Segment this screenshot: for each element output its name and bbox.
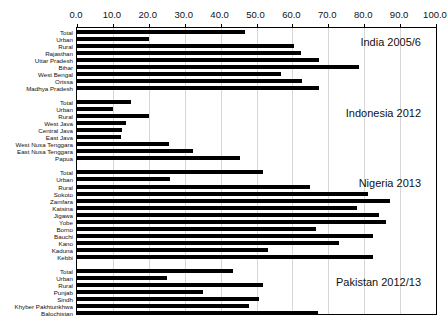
bar-row-label: Bihar [59, 63, 73, 70]
bar [77, 248, 268, 252]
bar-row: Bauchi [0, 232, 445, 239]
bar [77, 107, 113, 111]
bar-row: Bihar [0, 63, 445, 70]
bar-row: Central Java [0, 127, 445, 134]
bar-row: Total [0, 98, 445, 105]
bar-row-label: Total [60, 268, 73, 275]
bar [77, 79, 302, 83]
bar-row: Orissa [0, 77, 445, 84]
bar [77, 297, 259, 301]
bar-row-label: East Java [46, 134, 73, 141]
bar [77, 128, 122, 132]
bar [77, 114, 149, 118]
bar [77, 51, 301, 55]
bar-row-label: Yobe [59, 218, 73, 225]
bar-row: Yobe [0, 218, 445, 225]
bar-row-label: Punjab [54, 289, 73, 296]
bar-row-label: Uttar Pradesh [35, 56, 73, 63]
bar [77, 241, 339, 245]
bar-row: West Java [0, 120, 445, 127]
bar-row-label: Kaduna [52, 246, 73, 253]
bar-row-label: West Nusa Tenggara [15, 141, 73, 148]
bar [77, 199, 390, 203]
section-label: India 2005/6 [360, 36, 421, 49]
bar-row: Borno [0, 225, 445, 232]
bar-row-label: Rural [58, 183, 73, 190]
bar [77, 30, 245, 34]
bar-row: Balochistan [0, 310, 445, 317]
bar-row-label: Papua [55, 155, 73, 162]
bar-row-label: Total [60, 169, 73, 176]
bar-row-label: West Java [44, 120, 73, 127]
bar-row: West Nusa Tenggara [0, 141, 445, 148]
bar [77, 192, 368, 196]
bar [77, 290, 203, 294]
bar [77, 58, 319, 62]
bar [77, 283, 263, 287]
bar-row-label: Rural [58, 282, 73, 289]
bar-row: Madhya Pradesh [0, 84, 445, 91]
bar [77, 177, 170, 181]
bar-row: Total [0, 28, 445, 35]
bar [77, 100, 131, 104]
bar [77, 206, 357, 210]
bar [77, 304, 249, 308]
bar-row-label: Urban [56, 106, 73, 113]
bar-row: Katsina [0, 204, 445, 211]
section-label: Indonesia 2012 [346, 107, 421, 120]
bar [77, 156, 240, 160]
bar [77, 44, 294, 48]
bar-row-label: Urban [56, 35, 73, 42]
bar [77, 142, 169, 146]
bar-row-label: West Bengal [38, 70, 73, 77]
bar-row-label: Rajasthan [45, 49, 73, 56]
bar [77, 72, 281, 76]
bar [77, 65, 359, 69]
bar-row: Punjab [0, 289, 445, 296]
section-label: Pakistan 2012/13 [336, 276, 421, 289]
bar-row: Total [0, 169, 445, 176]
bar-row-label: Total [60, 28, 73, 35]
bar-row-label: Khyber Pakhtunkhwa [15, 303, 73, 310]
bar-row-label: Sokoto [54, 190, 73, 197]
bar-row: Kebbi [0, 254, 445, 261]
bar [77, 135, 121, 139]
bar-row: Uttar Pradesh [0, 56, 445, 63]
bar-row-label: Rural [58, 42, 73, 49]
bar-row: East Java [0, 134, 445, 141]
bar-row: Kano [0, 239, 445, 246]
bar-row-label: Total [60, 98, 73, 105]
bar [77, 185, 310, 189]
bar-row: East Nusa Tenggara [0, 148, 445, 155]
bar [77, 276, 167, 280]
section-label: Nigeria 2013 [359, 177, 421, 190]
bar [77, 149, 193, 153]
bar-row-label: Urban [56, 275, 73, 282]
bar-row: West Bengal [0, 70, 445, 77]
bar-row: Sokoto [0, 190, 445, 197]
bar-row-label: Balochistan [41, 310, 73, 317]
bar-row-label: Sindh [57, 296, 73, 303]
bar [77, 269, 233, 273]
bar-row-label: East Nusa Tenggara [17, 148, 73, 155]
bar-row-label: Kebbi [57, 254, 73, 261]
bar [77, 255, 373, 259]
bar [77, 37, 149, 41]
bar [77, 86, 319, 90]
bar-row-label: Jigawa [54, 211, 73, 218]
bar-row-label: Orissa [55, 77, 73, 84]
bottom-caption [10, 317, 440, 324]
bar-row: Papua [0, 155, 445, 162]
bar-row-label: Urban [56, 176, 73, 183]
bar-row-label: Bauchi [54, 232, 73, 239]
bar-row: Jigawa [0, 211, 445, 218]
bar-row: Rajasthan [0, 49, 445, 56]
bar [77, 121, 126, 125]
bar [77, 220, 386, 224]
bar [77, 213, 379, 217]
bar-row-label: Katsina [52, 204, 73, 211]
bar-row-label: Borno [56, 225, 73, 232]
bar-row: Kaduna [0, 246, 445, 253]
